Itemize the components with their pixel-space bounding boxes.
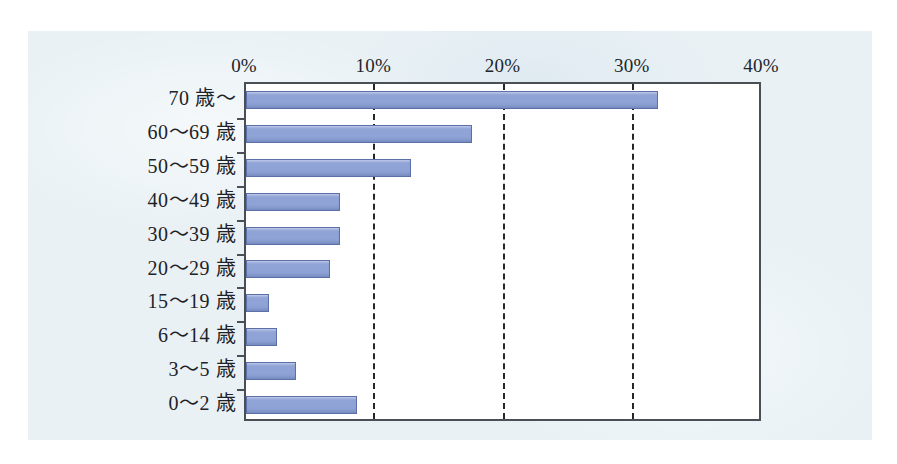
bar-row	[246, 220, 759, 254]
y-axis-category-label: 3〜5 歳	[169, 353, 237, 387]
bar	[246, 328, 277, 346]
y-axis-tick-mark	[237, 321, 246, 323]
y-axis-category-label: 50〜59 歳	[148, 150, 237, 184]
bar	[246, 362, 296, 380]
plot-area	[244, 82, 761, 421]
bar-row	[246, 389, 759, 423]
y-axis-tick-mark	[237, 152, 246, 154]
x-axis-tick-label: 10%	[356, 55, 391, 77]
y-axis-category-label: 60〜69 歳	[148, 116, 237, 150]
bar-row	[246, 152, 759, 186]
x-axis-tick-label: 20%	[485, 55, 520, 77]
y-axis-category-label: 30〜39 歳	[148, 218, 237, 252]
bar	[246, 125, 472, 143]
y-axis-tick-mark	[237, 287, 246, 289]
bar	[246, 294, 269, 312]
bar	[246, 227, 340, 245]
bar-row	[246, 287, 759, 321]
y-axis-category-label: 20〜29 歳	[148, 252, 237, 286]
bar-row	[246, 186, 759, 220]
y-axis-category-label: 40〜49 歳	[148, 184, 237, 218]
bar	[246, 260, 330, 278]
y-axis-tick-mark	[237, 220, 246, 222]
bar	[246, 159, 411, 177]
y-axis-tick-mark	[237, 389, 246, 391]
x-axis-tick-label: 40%	[743, 55, 778, 77]
y-axis-tick-mark	[237, 186, 246, 188]
bar-row	[246, 355, 759, 389]
horizontal-bar-chart: 0%10%20%30%40% 70 歳〜60〜69 歳50〜59 歳40〜49 …	[0, 0, 897, 464]
bar	[246, 91, 658, 109]
y-axis-tick-mark	[237, 254, 246, 256]
y-axis-category-label: 15〜19 歳	[148, 285, 237, 319]
bar-row	[246, 321, 759, 355]
x-axis-tick-label: 0%	[231, 55, 257, 77]
y-axis-category-label: 0〜2 歳	[169, 387, 237, 421]
y-axis-tick-mark	[237, 355, 246, 357]
bar-row	[246, 254, 759, 288]
bar	[246, 396, 357, 414]
bar-row	[246, 84, 759, 118]
bar	[246, 193, 340, 211]
y-axis-category-labels: 70 歳〜60〜69 歳50〜59 歳40〜49 歳30〜39 歳20〜29 歳…	[60, 82, 236, 421]
bar-row	[246, 118, 759, 152]
y-axis-category-label: 6〜14 歳	[158, 319, 236, 353]
x-axis-tick-label: 30%	[614, 55, 649, 77]
y-axis-tick-mark	[237, 118, 246, 120]
y-axis-category-label: 70 歳〜	[169, 82, 237, 116]
